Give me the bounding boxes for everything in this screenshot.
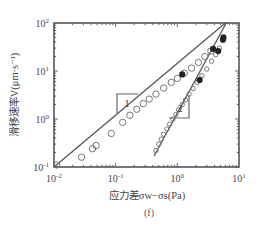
- filled-marker: [220, 34, 226, 40]
- x-tick-label: 100: [171, 172, 185, 184]
- y-tick-label: 10-1: [33, 161, 49, 173]
- x-tick-label: 101: [232, 172, 246, 184]
- y-axis-label: 滑移速率V(μm·s⁻¹): [8, 52, 21, 137]
- filled-marker: [197, 77, 203, 83]
- series-label-2: 2: [177, 102, 183, 114]
- figure-caption: (f): [144, 207, 154, 219]
- slip-rate-chart: 1 2 10-210-1100101 10-1100101102 应力差σw−σ…: [0, 0, 259, 231]
- x-tick-labels: 10-210-1100101: [46, 172, 246, 184]
- filled-marker: [179, 71, 185, 77]
- filled-marker: [215, 48, 221, 54]
- x-axis-label: 应力差σw−σs(Pa): [109, 189, 186, 202]
- y-tick-labels: 10-1100101102: [33, 17, 49, 173]
- y-tick-label: 101: [36, 65, 50, 77]
- y-tick-label: 100: [36, 113, 50, 125]
- x-tick-label: 10-2: [46, 172, 62, 184]
- plot-frame: [54, 23, 239, 167]
- y-tick-label: 102: [36, 17, 50, 29]
- series-label-1: 1: [124, 97, 130, 109]
- x-tick-label: 10-1: [108, 172, 124, 184]
